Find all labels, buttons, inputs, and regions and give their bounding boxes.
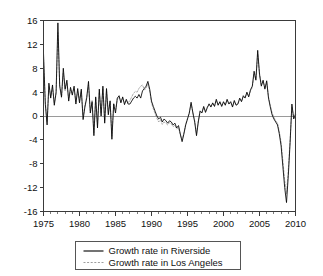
series-line-riverside [44, 23, 296, 203]
y-tick-label: -12 [24, 182, 38, 193]
y-tick-label: 16 [27, 15, 38, 26]
y-tick-label: 12 [27, 39, 38, 50]
x-tick-label: 1995 [177, 218, 198, 229]
x-tick-label: 1985 [105, 218, 126, 229]
y-tick-label: -4 [29, 134, 37, 145]
y-tick-label: 8 [32, 63, 37, 74]
legend-label: Growth rate in Los Angeles [109, 257, 223, 268]
x-tick-label: 2005 [249, 218, 270, 229]
y-tick-label: 0 [32, 110, 37, 121]
x-axis-ticks: 19751980198519901995200020052010 [33, 212, 306, 229]
chart-legend: Growth rate in RiversideGrowth rate in L… [76, 242, 241, 270]
legend-label: Growth rate in Riverside [109, 245, 211, 256]
y-tick-label: 4 [32, 87, 37, 98]
y-tick-label: -16 [24, 206, 38, 217]
y-axis-ticks: 1612840-4-8-12-16 [24, 15, 44, 217]
x-tick-label: 2010 [285, 218, 306, 229]
chart-figure: 1612840-4-8-12-16 1975198019851990199520… [0, 0, 323, 276]
chart-canvas: 1612840-4-8-12-16 1975198019851990199520… [0, 0, 323, 276]
y-tick-label: -8 [29, 158, 37, 169]
x-tick-label: 1990 [141, 218, 162, 229]
x-tick-label: 1975 [33, 218, 54, 229]
x-tick-label: 2000 [213, 218, 234, 229]
x-tick-label: 1980 [69, 218, 90, 229]
